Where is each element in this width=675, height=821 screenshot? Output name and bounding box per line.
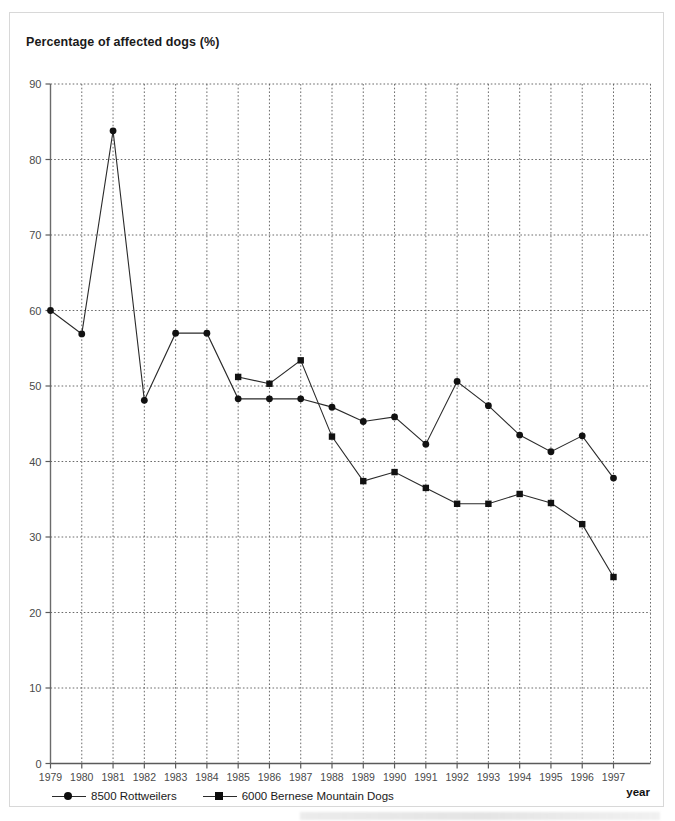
y-axis-tick-label: 30	[29, 531, 41, 543]
y-axis-tick-label: 20	[29, 607, 41, 619]
series-line	[51, 131, 614, 478]
grid-lines	[51, 84, 651, 764]
data-point-marker	[78, 331, 85, 338]
data-point-marker	[548, 448, 555, 455]
data-point-marker	[610, 574, 616, 580]
data-point-marker	[422, 441, 429, 448]
chart-plot-area: 0102030405060708090197919801981198219831…	[0, 0, 675, 821]
data-point-marker	[454, 501, 460, 507]
series-line	[238, 360, 613, 577]
y-axis-tick-label: 60	[29, 305, 41, 317]
x-axis-tick-label: 1987	[289, 771, 313, 783]
data-point-marker	[360, 418, 367, 425]
y-axis-tick-label: 40	[29, 456, 41, 468]
x-axis-tick-label: 1981	[101, 771, 125, 783]
legend-marker-circle-icon	[52, 790, 86, 802]
legend-item-rottweilers[interactable]: 8500 Rottweilers	[52, 790, 177, 802]
x-axis-tick-label: 1995	[539, 771, 563, 783]
x-axis-tick-label: 1984	[195, 771, 219, 783]
chart-legend: 8500 Rottweilers 6000 Bernese Mountain D…	[52, 790, 394, 802]
data-point-marker	[423, 485, 429, 491]
x-axis-tick-label: 1983	[164, 771, 188, 783]
y-axis-tick-label: 70	[29, 229, 41, 241]
y-axis-tick-label: 90	[29, 78, 41, 90]
data-point-marker	[235, 374, 241, 380]
x-axis-tick-label: 1985	[226, 771, 250, 783]
x-axis-ticks: 1979198019811982198319841985198619871988…	[39, 764, 626, 783]
data-point-marker	[610, 475, 617, 482]
legend-item-bernese[interactable]: 6000 Bernese Mountain Dogs	[203, 790, 394, 802]
data-point-marker	[297, 395, 304, 402]
legend-label-rottweilers: 8500 Rottweilers	[91, 790, 177, 802]
x-axis-tick-label: 1996	[571, 771, 595, 783]
data-point-marker	[235, 395, 242, 402]
data-point-marker	[391, 414, 398, 421]
y-axis-tick-label: 50	[29, 380, 41, 392]
legend-marker-square-icon	[203, 790, 237, 802]
data-point-marker	[391, 469, 397, 475]
data-point-marker	[516, 432, 523, 439]
x-axis-tick-label: 1997	[602, 771, 626, 783]
legend-label-bernese: 6000 Bernese Mountain Dogs	[242, 790, 394, 802]
data-point-marker	[548, 500, 554, 506]
data-point-marker	[141, 397, 148, 404]
data-point-marker	[266, 395, 273, 402]
x-axis-tick-label: 1993	[477, 771, 501, 783]
x-axis-tick-label: 1982	[133, 771, 157, 783]
x-axis-tick-label: 1994	[508, 771, 532, 783]
x-axis-tick-label: 1992	[445, 771, 469, 783]
x-axis-tick-label: 1991	[414, 771, 438, 783]
data-point-marker	[579, 432, 586, 439]
data-point-marker	[298, 357, 304, 363]
data-point-marker	[329, 433, 335, 439]
data-point-marker	[485, 402, 492, 409]
chart-svg: 0102030405060708090197919801981198219831…	[0, 0, 675, 821]
x-axis-title: year	[626, 786, 650, 798]
data-point-marker	[329, 404, 336, 411]
y-axis-tick-label: 0	[35, 758, 41, 770]
data-point-marker	[266, 381, 272, 387]
y-axis-ticks: 0102030405060708090	[29, 78, 50, 770]
data-point-marker	[203, 330, 210, 337]
x-axis-tick-label: 1990	[383, 771, 407, 783]
y-axis-tick-label: 80	[29, 154, 41, 166]
data-point-marker	[485, 501, 491, 507]
x-axis-tick-label: 1988	[320, 771, 344, 783]
data-point-marker	[579, 521, 585, 527]
data-point-marker	[360, 478, 366, 484]
x-axis-tick-label: 1986	[258, 771, 282, 783]
data-point-marker	[516, 491, 522, 497]
axes	[51, 84, 651, 764]
data-point-marker	[172, 330, 179, 337]
x-axis-tick-label: 1980	[70, 771, 94, 783]
x-axis-tick-label: 1989	[352, 771, 376, 783]
x-axis-tick-label: 1979	[39, 771, 63, 783]
data-point-marker	[454, 378, 461, 385]
data-point-marker	[47, 307, 54, 314]
page-canvas: Percentage of affected dogs (%) 01020304…	[0, 0, 675, 821]
y-axis-tick-label: 10	[29, 682, 41, 694]
data-point-marker	[110, 127, 117, 134]
